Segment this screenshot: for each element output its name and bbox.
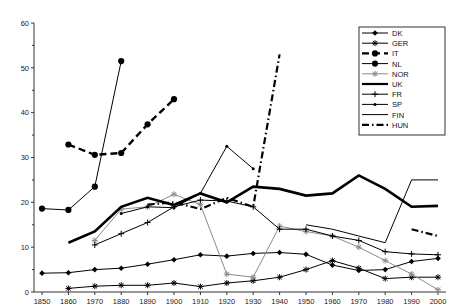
data-point <box>92 184 98 190</box>
data-point <box>92 242 98 248</box>
data-point <box>435 287 441 293</box>
data-point <box>118 265 124 271</box>
series-fin <box>306 180 438 243</box>
data-point <box>356 265 362 271</box>
data-point <box>173 206 176 209</box>
data-point <box>118 231 124 237</box>
x-tick-label: 1990 <box>403 297 420 306</box>
data-point <box>329 258 335 264</box>
x-tick-label: 1960 <box>324 297 341 306</box>
x-tick-label: 1880 <box>113 297 130 306</box>
x-tick-label: 1980 <box>377 297 394 306</box>
series-sp <box>120 145 255 215</box>
data-point <box>372 61 378 67</box>
data-point <box>372 50 378 56</box>
x-axis: 1850186019701880189019001910192019301940… <box>34 292 447 306</box>
data-point <box>303 252 309 258</box>
series-nor <box>92 191 441 292</box>
x-tick-label: 1970 <box>86 297 103 306</box>
series-it <box>65 96 177 158</box>
legend-label: HUN <box>392 121 408 130</box>
data-point <box>197 284 203 290</box>
y-tick-label: 0 <box>25 288 29 297</box>
data-point <box>250 251 256 257</box>
data-point <box>146 205 149 208</box>
legend-label: IT <box>392 49 399 58</box>
data-point <box>409 259 415 265</box>
data-point <box>65 285 71 291</box>
data-point <box>435 274 441 280</box>
data-point <box>252 167 255 170</box>
series-line <box>68 99 174 155</box>
data-point <box>382 267 388 273</box>
data-point <box>409 271 415 277</box>
x-tick-label: 1950 <box>298 297 315 306</box>
chart-root: 0102030405060 18501860197018801890190019… <box>0 0 456 307</box>
data-point <box>224 280 230 286</box>
legend-label: FIN <box>392 111 404 120</box>
data-point <box>145 261 151 267</box>
y-tick-label: 20 <box>21 198 29 207</box>
data-point <box>145 220 151 226</box>
legend-label: SP <box>392 100 402 109</box>
data-point <box>372 71 378 77</box>
legend-label: DK <box>392 29 402 38</box>
data-point <box>356 237 362 243</box>
x-tick-label: 1860 <box>60 297 77 306</box>
data-point <box>250 274 256 280</box>
data-point <box>171 257 177 263</box>
data-point <box>145 121 151 127</box>
data-point <box>145 282 151 288</box>
data-point <box>197 197 203 203</box>
data-point <box>118 58 124 64</box>
data-point <box>118 150 124 156</box>
data-point <box>171 96 177 102</box>
legend-label: FR <box>392 90 403 99</box>
series-line <box>42 253 438 274</box>
data-point <box>374 103 377 106</box>
data-point <box>382 276 388 282</box>
x-tick-label: 1850 <box>34 297 51 306</box>
legend-label: GER <box>392 39 409 48</box>
x-tick-label: 1970 <box>350 297 367 306</box>
data-point <box>277 250 283 256</box>
data-point <box>198 252 204 258</box>
series-dk <box>39 250 441 276</box>
data-point <box>171 191 177 197</box>
data-point <box>382 249 388 255</box>
legend-label: NL <box>392 60 402 69</box>
series-fr <box>92 197 441 258</box>
data-point <box>372 40 378 46</box>
data-point <box>277 274 283 280</box>
data-point <box>356 244 362 250</box>
x-tick-label: 2000 <box>430 297 447 306</box>
legend-label: NOR <box>392 70 409 79</box>
data-point <box>39 206 45 212</box>
x-tick-label: 1890 <box>139 297 156 306</box>
data-point <box>92 283 98 289</box>
series-nl <box>39 58 124 213</box>
x-tick-label: 1940 <box>271 297 288 306</box>
data-point <box>435 252 441 258</box>
data-point <box>65 207 71 213</box>
data-point <box>409 251 415 257</box>
y-axis: 0102030405060 <box>21 19 34 297</box>
data-point <box>92 267 98 273</box>
data-point <box>120 212 123 215</box>
data-point <box>382 258 388 264</box>
data-point <box>171 280 177 286</box>
data-point <box>65 141 71 147</box>
series-line <box>42 61 121 210</box>
data-point <box>224 253 230 259</box>
x-tick-label: 1920 <box>218 297 235 306</box>
data-point <box>66 270 72 276</box>
x-tick-label: 1930 <box>245 297 262 306</box>
data-point <box>118 282 124 288</box>
chart-legend: DKGERITNLNORUKFRSPFINHUN <box>359 27 445 135</box>
x-tick-label: 1910 <box>192 297 209 306</box>
series-line <box>306 180 438 243</box>
y-tick-label: 60 <box>21 19 29 28</box>
data-point <box>92 152 98 158</box>
y-tick-label: 40 <box>21 108 29 117</box>
y-tick-label: 30 <box>21 153 29 162</box>
